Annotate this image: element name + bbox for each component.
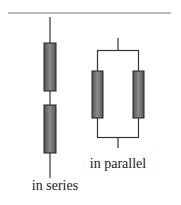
circuit-diagram: in parallel in series — [0, 0, 181, 205]
series-circuit — [44, 17, 56, 178]
parallel-loop — [98, 51, 139, 138]
parallel-circuit — [92, 38, 144, 148]
label-in-series: in series — [32, 178, 78, 193]
parallel-resistor-right — [133, 71, 144, 118]
series-resistor-2 — [44, 105, 56, 153]
series-resistor-1 — [44, 43, 56, 91]
label-in-parallel: in parallel — [90, 156, 146, 171]
parallel-resistor-left — [92, 71, 103, 118]
